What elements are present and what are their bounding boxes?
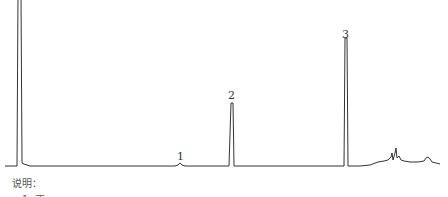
- peak-label-2: 2: [228, 89, 235, 102]
- notes-heading: 说明：: [12, 175, 42, 190]
- chromatogram-plot: [0, 0, 448, 197]
- notes-line-2: 1. 丁...: [22, 191, 54, 197]
- peak-label-3: 3: [342, 28, 349, 41]
- peak-label-1: 1: [177, 150, 184, 163]
- chromatogram-trace: [5, 0, 440, 166]
